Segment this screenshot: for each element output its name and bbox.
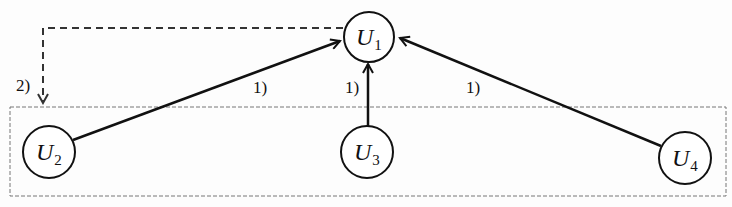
diagram-svg: U1 U2 U3 U4 2) 1) 1) 1) — [0, 0, 732, 207]
node-u3: U3 — [341, 126, 393, 178]
node-u4: U4 — [659, 132, 711, 184]
edge-label-2: 2) — [16, 76, 30, 95]
diagram-canvas: U1 U2 U3 U4 2) 1) 1) 1) — [0, 0, 732, 207]
edge-u2-u1 — [73, 41, 340, 140]
edge-label-u4-u1: 1) — [466, 78, 480, 97]
edge-label-u3-u1: 1) — [345, 78, 359, 97]
edge-label-u2-u1: 1) — [253, 78, 267, 97]
feedback-arrow-dashed — [43, 28, 343, 103]
edge-u4-u1 — [400, 38, 661, 146]
node-u2: U2 — [23, 126, 75, 178]
node-u1: U1 — [344, 12, 394, 62]
